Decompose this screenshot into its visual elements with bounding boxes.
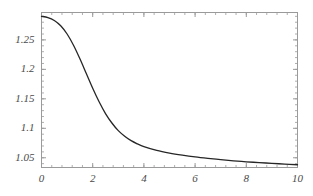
x-tick-label: 4 bbox=[129, 173, 159, 184]
chart-background bbox=[0, 0, 312, 196]
x-tick-label: 2 bbox=[78, 173, 108, 184]
plot-area bbox=[0, 0, 312, 196]
y-tick-label: 1.25 bbox=[15, 34, 34, 45]
chart-figure: 1.251.21.151.11.05 0246810 bbox=[0, 0, 312, 196]
y-tick-label: 1.2 bbox=[21, 63, 35, 74]
y-tick-label: 1.15 bbox=[15, 93, 34, 104]
x-tick-label: 6 bbox=[180, 173, 210, 184]
x-tick-label: 10 bbox=[283, 173, 313, 184]
y-tick-label: 1.1 bbox=[21, 122, 35, 133]
y-tick-label: 1.05 bbox=[15, 152, 34, 163]
x-tick-label: 8 bbox=[231, 173, 261, 184]
x-tick-label: 0 bbox=[27, 173, 57, 184]
